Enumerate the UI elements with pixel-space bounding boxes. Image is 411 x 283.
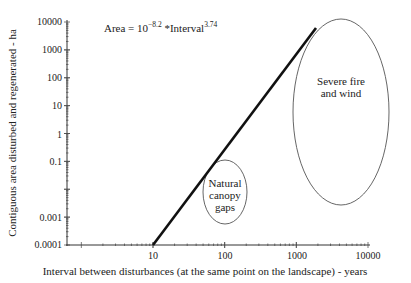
svg-text:Severe fire: Severe fire: [317, 75, 365, 87]
svg-text:gaps: gaps: [215, 201, 235, 213]
y-axis-title: Contiguous area disturbed and regenerate…: [6, 29, 18, 237]
y-tick-0.1: 0.1: [50, 156, 63, 167]
x-tick-10000: 10000: [356, 250, 381, 261]
y-tick-10: 10: [52, 100, 62, 111]
y-tick-10000: 10000: [37, 16, 62, 27]
x-tick-1000: 1000: [287, 250, 307, 261]
y-tick-1000: 1000: [42, 44, 62, 55]
x-tick-10: 10: [148, 250, 158, 261]
natural-canopy-gaps-label: Natural canopy gaps: [209, 177, 242, 213]
y-tick-100: 100: [47, 72, 62, 83]
chart: 10000 1000 100 10 1 0.1 0.001 0.0001 10 …: [0, 0, 411, 283]
svg-text:and wind: and wind: [321, 87, 362, 99]
svg-text:Natural: Natural: [209, 177, 242, 189]
x-axis-title: Interval between disturbances (at the sa…: [43, 265, 368, 278]
y-tick-labels: 10000 1000 100 10 1 0.1 0.001 0.0001: [35, 16, 63, 250]
severe-fire-wind-ellipse: [293, 19, 389, 205]
svg-text:canopy: canopy: [209, 189, 241, 201]
y-tick-0.0001: 0.0001: [35, 239, 63, 250]
severe-fire-wind-label: Severe fire and wind: [317, 75, 365, 99]
equation-annotation: Area = 10−8.2 *Interval3.74: [104, 20, 218, 34]
x-tick-100: 100: [218, 250, 233, 261]
x-tick-labels: 10 100 1000 10000: [148, 250, 381, 261]
y-tick-0.001: 0.001: [40, 212, 63, 223]
y-tick-1: 1: [57, 129, 62, 140]
